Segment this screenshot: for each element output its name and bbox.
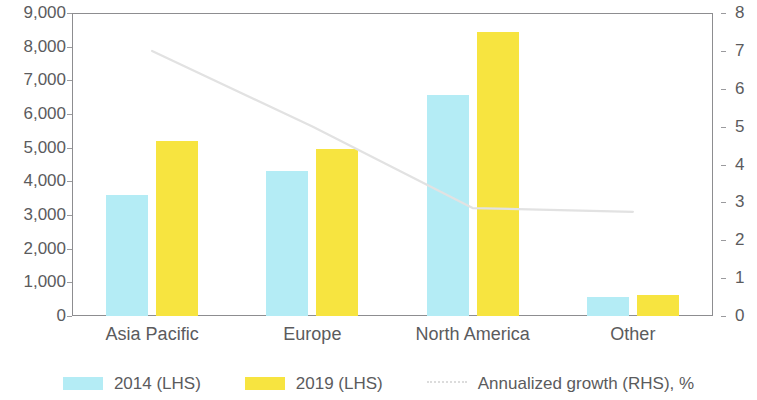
- right-axis-tick-mark: [721, 165, 726, 166]
- left-axis-tick-label: 2,000: [0, 240, 66, 257]
- right-axis-tick-mark: [721, 51, 726, 52]
- legend-label: 2019 (LHS): [296, 375, 383, 392]
- legend-item-2[interactable]: 2019 (LHS): [245, 375, 383, 392]
- category-label-other: Other: [610, 325, 655, 343]
- right-axis-tick-label: 2: [735, 231, 744, 248]
- right-axis-tick-label: 4: [735, 156, 744, 173]
- growth-line-swatch: [427, 381, 467, 386]
- category-axis-labels: Asia PacificEuropeNorth AmericaOther: [72, 325, 713, 355]
- bar-2019-swatch: [245, 377, 285, 390]
- left-axis-tick-label: 9,000: [0, 4, 66, 21]
- right-axis-tick-label: 5: [735, 118, 744, 135]
- right-axis-tick-label: 1: [735, 269, 744, 286]
- right-axis-tick-label: 0: [735, 307, 744, 324]
- right-axis-tick-mark: [721, 13, 726, 14]
- category-label-asia-pacific: Asia Pacific: [106, 325, 199, 343]
- right-axis-tick-mark: [721, 127, 726, 128]
- left-axis-tick-label: 5,000: [0, 139, 66, 156]
- left-axis-tick-label: 0: [0, 307, 66, 324]
- bar-2014-swatch: [63, 377, 103, 390]
- left-axis-tick-label: 8,000: [0, 38, 66, 55]
- chart-container: 01,0002,0003,0004,0005,0006,0007,0008,00…: [0, 0, 757, 400]
- legend-item-3[interactable]: Annualized growth (RHS), %: [427, 375, 694, 392]
- plot-area: [72, 13, 713, 316]
- right-axis-tick-label: 3: [735, 193, 744, 210]
- right-axis-tick-label: 6: [735, 80, 744, 97]
- category-label-europe: Europe: [283, 325, 341, 343]
- right-axis-tick-mark: [721, 278, 726, 279]
- left-axis-tick-label: 3,000: [0, 206, 66, 223]
- right-axis-tick-label: 7: [735, 42, 744, 59]
- legend-item-1[interactable]: 2014 (LHS): [63, 375, 201, 392]
- right-axis: 012345678: [721, 0, 757, 400]
- right-axis-tick-mark: [721, 89, 726, 90]
- left-axis-tick-label: 6,000: [0, 105, 66, 122]
- left-axis-tick-label: 7,000: [0, 71, 66, 88]
- category-label-north-america: North America: [416, 325, 530, 343]
- right-axis-tick-mark: [721, 316, 726, 317]
- legend-label: 2014 (LHS): [114, 375, 201, 392]
- left-axis-tick-label: 1,000: [0, 273, 66, 290]
- left-axis: 01,0002,0003,0004,0005,0006,0007,0008,00…: [0, 0, 66, 400]
- right-axis-tick-mark: [721, 240, 726, 241]
- left-axis-tick-mark: [67, 316, 72, 317]
- legend-label: Annualized growth (RHS), %: [478, 375, 694, 392]
- left-axis-tick-label: 4,000: [0, 172, 66, 189]
- chart-legend: 2014 (LHS)2019 (LHS)Annualized growth (R…: [0, 366, 757, 400]
- right-axis-tick-label: 8: [735, 4, 744, 21]
- right-axis-tick-mark: [721, 202, 726, 203]
